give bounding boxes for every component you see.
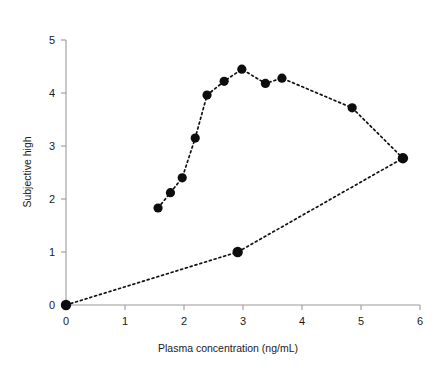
- data-point-marker: [232, 247, 242, 257]
- y-axis-title: Subjective high: [21, 136, 33, 207]
- data-point-marker: [237, 65, 246, 74]
- x-tick-label: 1: [122, 315, 128, 327]
- x-tick-label: 5: [358, 315, 364, 327]
- data-point-marker: [61, 300, 71, 310]
- data-point-marker: [220, 77, 229, 86]
- y-tick-label: 2: [49, 193, 55, 205]
- data-point-marker: [277, 74, 286, 83]
- x-axis-title: Plasma concentration (ng/mL): [158, 342, 298, 354]
- data-point-marker: [398, 153, 408, 163]
- y-tick-label: 5: [49, 34, 55, 46]
- data-point-marker: [178, 173, 187, 182]
- y-tick-label: 3: [49, 140, 55, 152]
- x-tick-label: 6: [417, 315, 423, 327]
- data-point-marker: [191, 133, 200, 142]
- x-tick-label: 0: [63, 315, 69, 327]
- data-point-marker: [261, 79, 270, 88]
- data-point-marker: [166, 188, 175, 197]
- x-tick-label: 3: [240, 315, 246, 327]
- x-tick-label: 4: [299, 315, 305, 327]
- data-point-marker: [348, 103, 357, 112]
- y-tick-label: 0: [49, 299, 55, 311]
- x-tick-label: 2: [181, 315, 187, 327]
- data-point-marker: [153, 203, 162, 212]
- chart-figure: 0123456 012345 Plasma concentration (ng/…: [0, 0, 445, 374]
- data-point-marker: [202, 91, 211, 100]
- y-tick-label: 1: [49, 246, 55, 258]
- y-tick-label: 4: [49, 87, 55, 99]
